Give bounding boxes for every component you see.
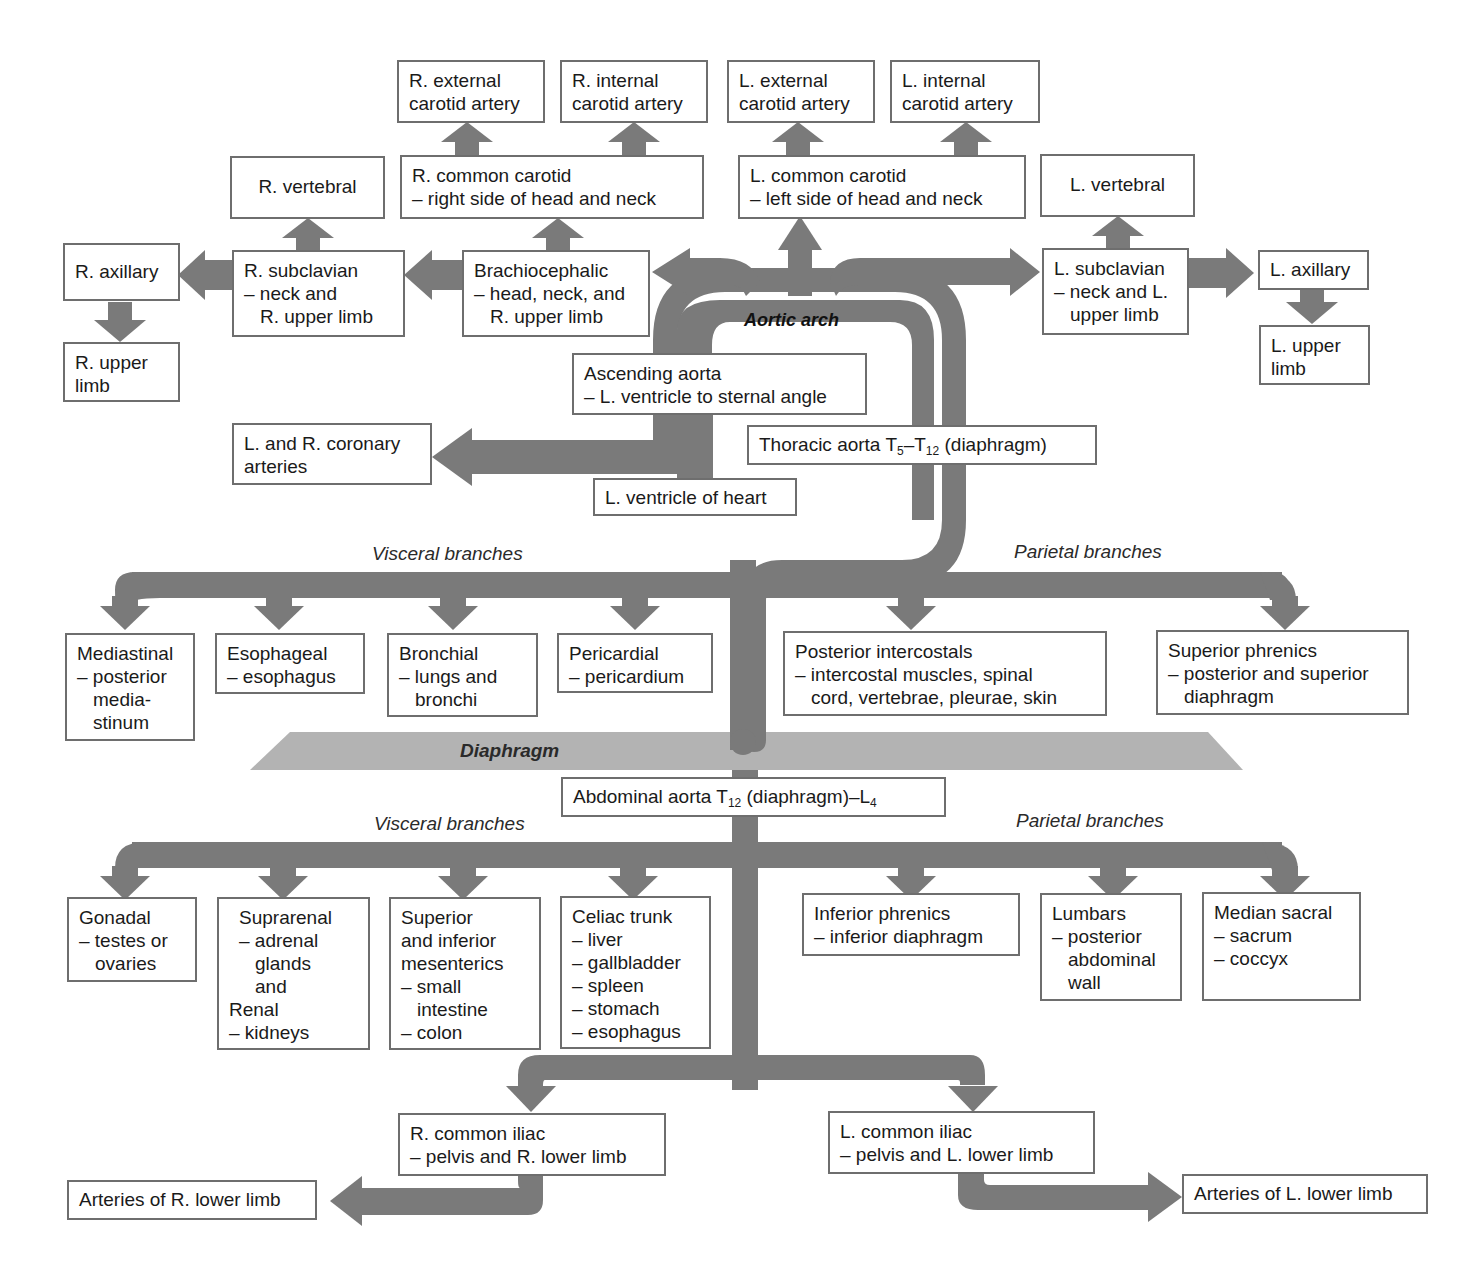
box-coronary-arteries: L. and R. coronary arteries [232, 423, 432, 485]
box-l-vertebral: L. vertebral [1040, 154, 1195, 217]
box-thoracic-aorta: Thoracic aorta T5–T12 (diaphragm) [747, 425, 1097, 465]
box-l-external-carotid: L. external carotid artery [727, 60, 875, 123]
box-brachiocephalic: Brachiocephalic – head, neck, and R. upp… [462, 250, 650, 337]
box-inferior-phrenics: Inferior phrenics – inferior diaphragm [802, 893, 1020, 956]
thoracic-parietal-heading: Parietal branches [1014, 541, 1162, 563]
box-l-subclavian: L. subclavian – neck and L. upper limb [1042, 248, 1189, 335]
box-posterior-intercostals: Posterior intercostals – intercostal mus… [783, 631, 1107, 716]
abdominal-parietal-heading: Parietal branches [1016, 810, 1164, 832]
box-esophageal: Esophageal – esophagus [215, 633, 365, 694]
box-l-lower-limb-arteries: Arteries of L. lower limb [1182, 1174, 1428, 1214]
box-median-sacral: Median sacral – sacrum – coccyx [1202, 892, 1361, 1001]
aorta-branches-diagram: Aortic arch Diaphragm Visceral branches … [0, 0, 1478, 1279]
box-l-common-iliac: L. common iliac – pelvis and L. lower li… [828, 1111, 1095, 1174]
box-l-internal-carotid: L. internal carotid artery [890, 60, 1040, 123]
box-l-ventricle: L. ventricle of heart [593, 478, 797, 516]
box-r-common-carotid: R. common carotid – right side of head a… [400, 155, 704, 219]
abdominal-visceral-heading: Visceral branches [374, 813, 525, 835]
diaphragm-label: Diaphragm [460, 740, 559, 762]
box-r-lower-limb-arteries: Arteries of R. lower limb [67, 1180, 317, 1220]
box-mesenterics: Superior and inferior mesenterics – smal… [389, 897, 541, 1050]
box-suprarenal-renal: Suprarenal – adrenal glands and Renal – … [217, 897, 370, 1050]
box-ascending-aorta: Ascending aorta – L. ventricle to sterna… [572, 353, 867, 415]
box-r-upper-limb: R. upper limb [63, 342, 180, 402]
box-l-common-carotid: L. common carotid – left side of head an… [738, 155, 1026, 219]
box-r-vertebral: R. vertebral [230, 156, 385, 219]
thoracic-visceral-heading: Visceral branches [372, 543, 523, 565]
box-lumbars: Lumbars – posterior abdominal wall [1040, 893, 1182, 1001]
box-l-upper-limb: L. upper limb [1259, 325, 1370, 385]
box-r-subclavian: R. subclavian – neck and R. upper limb [232, 250, 405, 337]
box-mediastinal: Mediastinal – posterior media- stinum [65, 633, 195, 741]
box-r-internal-carotid: R. internal carotid artery [560, 60, 708, 123]
box-l-axillary: L. axillary [1258, 250, 1369, 290]
aortic-arch-label: Aortic arch [744, 310, 839, 331]
box-celiac-trunk: Celiac trunk – liver – gallbladder – spl… [560, 896, 711, 1049]
box-superior-phrenics: Superior phrenics – posterior and superi… [1156, 630, 1409, 715]
box-r-external-carotid: R. external carotid artery [397, 60, 545, 123]
box-bronchial: Bronchial – lungs and bronchi [387, 633, 538, 717]
box-pericardial: Pericardial – pericardium [557, 633, 713, 693]
box-gonadal: Gonadal – testes or ovaries [67, 897, 197, 982]
box-r-axillary: R. axillary [63, 243, 180, 301]
box-r-common-iliac: R. common iliac – pelvis and R. lower li… [398, 1113, 666, 1176]
box-abdominal-aorta: Abdominal aorta T12 (diaphragm)–L4 [561, 777, 946, 817]
